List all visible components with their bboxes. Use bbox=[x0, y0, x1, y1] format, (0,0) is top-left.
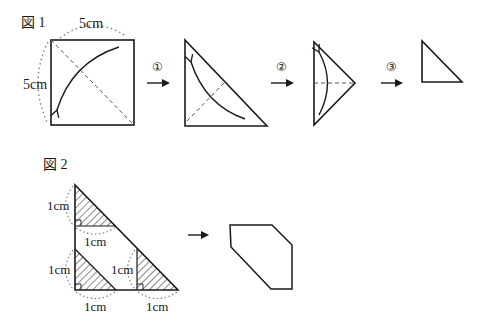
fig2-bottom-right-horizontal-label: 1cm bbox=[146, 300, 168, 313]
fig2-bottom-left-horizontal-label: 1cm bbox=[84, 300, 106, 313]
fig2-triangle bbox=[66, 185, 179, 299]
fig2-top-vertical-label: 1cm bbox=[47, 199, 69, 212]
figure2-title: 図 2 bbox=[43, 158, 68, 172]
diagram-canvas bbox=[0, 0, 486, 326]
figure1-title: 図 1 bbox=[21, 16, 46, 30]
fold-line bbox=[51, 40, 134, 125]
fig2-bottom-right-vertical-label: 1cm bbox=[111, 263, 133, 276]
fig1-triangle-step2 bbox=[314, 42, 355, 125]
fig1-final-triangle bbox=[422, 41, 462, 82]
fig1-triangle-step1 bbox=[185, 40, 267, 126]
fig1-left-length-label: 5cm bbox=[23, 78, 47, 92]
fig1-square bbox=[38, 25, 134, 125]
step1-label: ① bbox=[152, 61, 163, 73]
step2-label: ② bbox=[276, 61, 287, 73]
fold-line bbox=[187, 82, 225, 121]
fig2-bottom-left-vertical-label: 1cm bbox=[48, 263, 70, 276]
fig2-unfolded-shape bbox=[230, 225, 292, 289]
fig2-top-horizontal-label: 1cm bbox=[84, 235, 106, 248]
fold-arrow-icon bbox=[191, 62, 245, 119]
fig1-top-length-label: 5cm bbox=[79, 17, 103, 31]
step3-label: ③ bbox=[386, 61, 397, 73]
